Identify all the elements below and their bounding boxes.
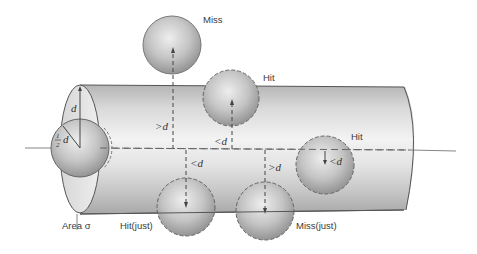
label-lt-d-bottom: <d xyxy=(190,157,203,169)
label-half-num: 1 xyxy=(56,132,60,140)
label-hit-just: Hit(just) xyxy=(120,220,153,231)
label-gt-d-left: >d xyxy=(155,120,168,132)
label-area: Area σ xyxy=(62,220,91,231)
label-hit-right: Hit xyxy=(351,131,363,142)
label-lt-d-right: <d xyxy=(329,155,342,167)
sphere-miss xyxy=(143,16,201,74)
label-half-den: 2 xyxy=(56,141,60,149)
label-hit-top: Hit xyxy=(263,72,275,83)
label-miss: Miss xyxy=(203,14,223,25)
axis-line-right xyxy=(410,150,456,151)
collision-diagram: Miss Hit Hit Hit(just) Miss(just) Area σ… xyxy=(0,0,477,254)
label-half-d: d xyxy=(63,133,69,145)
diagram-canvas: Miss Hit Hit Hit(just) Miss(just) Area σ… xyxy=(0,0,477,254)
sphere-hit-top xyxy=(203,70,259,126)
label-d-vertical: d xyxy=(71,102,77,114)
label-lt-d-top: <d xyxy=(214,135,227,147)
label-gt-d-bottom: >d xyxy=(268,161,281,173)
label-miss-just: Miss(just) xyxy=(296,220,337,231)
